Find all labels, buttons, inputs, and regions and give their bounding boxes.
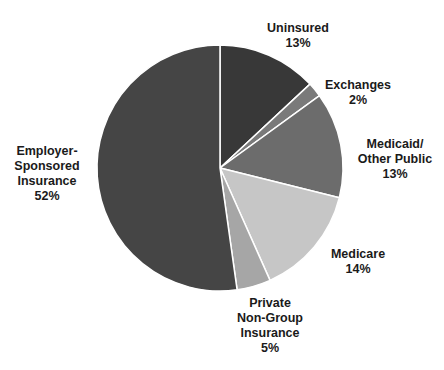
label-medicaid: Medicaid/ Other Public 13%: [345, 137, 444, 182]
label-employer: Employer- Sponsored Insurance 52%: [6, 144, 88, 204]
label-medicare: Medicare 14%: [318, 247, 398, 277]
label-exchanges: Exchanges 2%: [318, 78, 398, 108]
label-private: Private Non-Group Insurance 5%: [225, 296, 315, 356]
label-uninsured: Uninsured 13%: [258, 21, 338, 51]
pie-slice-employer-sponsored-insurance: [97, 45, 237, 291]
